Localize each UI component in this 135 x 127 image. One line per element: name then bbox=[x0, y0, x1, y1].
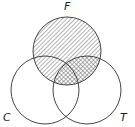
label-c: C bbox=[3, 111, 11, 124]
label-f: F bbox=[64, 0, 71, 13]
venn-diagram: F C T bbox=[0, 0, 135, 127]
label-t: T bbox=[120, 111, 128, 124]
